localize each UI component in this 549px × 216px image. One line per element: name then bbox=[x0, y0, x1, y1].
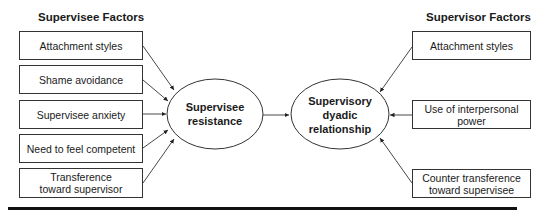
supervisee-factors-heading: Supervisee Factors bbox=[38, 11, 144, 23]
factor-box-supervisee-attachment: Attachment styles bbox=[19, 31, 143, 60]
factor-box-transference: Transference toward supervisor bbox=[19, 168, 143, 198]
arrow-sup-attachment-to-relationship bbox=[380, 47, 412, 92]
factor-label: Attachment styles bbox=[40, 40, 123, 52]
arrow-transference-to-resistance bbox=[143, 139, 174, 183]
factor-box-supervisee-anxiety: Supervisee anxiety bbox=[19, 100, 143, 129]
supervisory-relationship-node: Supervisory dyadic relationship bbox=[296, 88, 384, 142]
factor-label: Transference toward supervisor bbox=[36, 171, 126, 195]
factor-box-countertransference: Counter transference toward supervisee bbox=[412, 169, 531, 198]
factor-label: Use of interpersonal power bbox=[423, 103, 520, 127]
factor-box-supervisor-attachment: Attachment styles bbox=[412, 31, 531, 60]
factor-label: Attachment styles bbox=[430, 40, 513, 52]
factor-label: Supervisee anxiety bbox=[37, 109, 126, 121]
supervisee-resistance-node: Supervisee resistance bbox=[178, 94, 252, 134]
supervisor-factors-heading: Supervisor Factors bbox=[426, 11, 531, 23]
arrow-competent-to-resistance bbox=[143, 130, 168, 148]
arrow-shame-to-resistance bbox=[143, 80, 168, 101]
factor-box-interpersonal-power: Use of interpersonal power bbox=[412, 100, 531, 129]
bottom-rule bbox=[8, 207, 517, 210]
factor-box-need-competent: Need to feel competent bbox=[19, 134, 143, 163]
factor-label: Need to feel competent bbox=[27, 143, 136, 155]
factor-label: Shame avoidance bbox=[39, 74, 123, 86]
arrow-countertransference-to-relationship bbox=[380, 138, 412, 183]
factor-label: Counter transference toward supervisee bbox=[419, 172, 524, 196]
factor-box-shame-avoidance: Shame avoidance bbox=[19, 65, 143, 94]
